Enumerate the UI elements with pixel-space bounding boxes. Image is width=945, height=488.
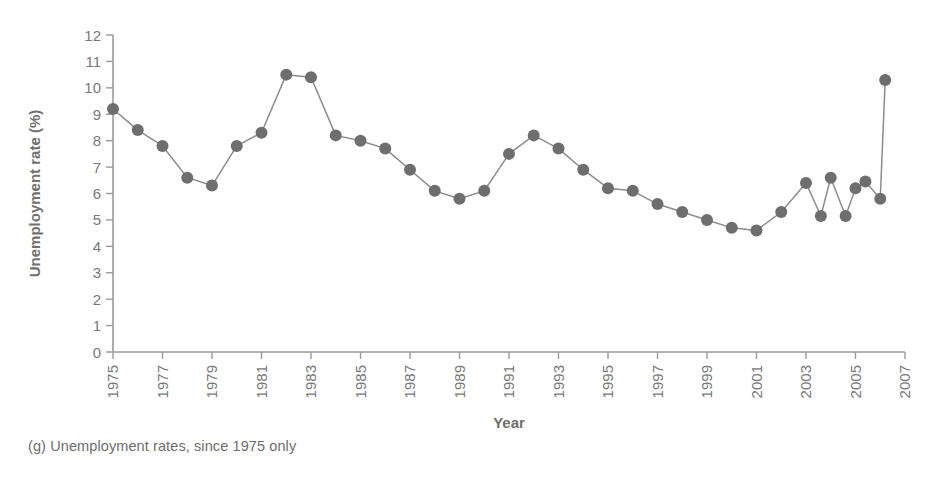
y-axis-tick-label: 8: [93, 132, 101, 149]
figure-container: 0123456789101112197519771979198119831985…: [0, 0, 945, 488]
x-axis-title: Year: [493, 414, 525, 431]
data-series-line: [113, 75, 885, 231]
data-point-marker: [280, 69, 292, 81]
data-point-marker: [107, 103, 119, 115]
data-point-marker: [256, 127, 268, 139]
data-point-marker: [528, 129, 540, 141]
data-point-marker: [652, 198, 664, 210]
y-axis-tick-label: 12: [84, 27, 101, 44]
data-point-marker: [627, 185, 639, 197]
x-axis-tick-label: 1997: [649, 365, 666, 398]
x-axis-tick-label: 1979: [203, 365, 220, 398]
x-axis-tick-label: 1975: [104, 365, 121, 398]
data-point-marker: [553, 143, 565, 155]
data-point-marker: [181, 172, 193, 184]
data-point-marker: [815, 210, 827, 222]
x-axis-tick-label: 1985: [352, 365, 369, 398]
x-axis-tick-label: 2005: [847, 365, 864, 398]
data-point-marker: [775, 206, 787, 218]
data-point-marker: [874, 193, 886, 205]
y-axis-tick-label: 1: [93, 317, 101, 334]
x-axis-tick-label: 1987: [401, 365, 418, 398]
y-axis-tick-label: 11: [85, 53, 101, 70]
data-point-marker: [404, 164, 416, 176]
data-point-marker: [800, 177, 812, 189]
data-point-marker: [701, 214, 713, 226]
data-point-marker: [825, 172, 837, 184]
data-point-marker: [503, 148, 515, 160]
data-point-marker: [330, 129, 342, 141]
x-axis-tick-label: 1995: [599, 365, 616, 398]
data-point-marker: [429, 185, 441, 197]
x-axis-tick-label: 2007: [896, 365, 913, 398]
y-axis-tick-label: 3: [93, 264, 101, 281]
x-axis-tick-label: 1993: [550, 365, 567, 398]
data-point-marker: [478, 185, 490, 197]
data-point-marker: [840, 210, 852, 222]
data-point-marker: [132, 124, 144, 136]
x-axis-tick-label: 1989: [451, 365, 468, 398]
data-point-marker: [157, 140, 169, 152]
y-axis-tick-label: 10: [84, 79, 101, 96]
x-axis-tick-label: 1977: [154, 365, 171, 398]
data-point-marker: [231, 140, 243, 152]
y-axis-tick-label: 9: [93, 106, 101, 123]
data-point-marker: [751, 224, 763, 236]
x-axis-tick-label: 2003: [797, 365, 814, 398]
x-axis-tick-label: 2001: [748, 365, 765, 398]
plot-group: 0123456789101112197519771979198119831985…: [26, 27, 913, 432]
data-point-marker: [305, 71, 317, 83]
unemployment-rate-line-chart: 0123456789101112197519771979198119831985…: [0, 0, 945, 488]
y-axis-tick-label: 6: [93, 185, 101, 202]
data-point-marker: [206, 180, 218, 192]
figure-caption: (g) Unemployment rates, since 1975 only: [28, 438, 296, 454]
y-axis-title: Unemployment rate (%): [26, 110, 43, 278]
x-axis-tick-label: 1981: [253, 365, 270, 398]
x-axis-tick-label: 1999: [698, 365, 715, 398]
data-point-marker: [454, 193, 466, 205]
data-point-marker: [850, 182, 862, 194]
y-axis-tick-label: 5: [93, 211, 101, 228]
x-axis-tick-label: 1991: [500, 365, 517, 398]
y-axis-tick-label: 4: [93, 238, 101, 255]
data-point-marker: [602, 182, 614, 194]
data-point-marker: [676, 206, 688, 218]
data-point-marker: [726, 222, 738, 234]
x-axis-tick-label: 1983: [302, 365, 319, 398]
y-axis-tick-label: 0: [93, 344, 101, 361]
y-axis-tick-label: 2: [93, 291, 101, 308]
data-point-marker: [879, 74, 891, 86]
data-point-marker: [859, 176, 871, 188]
data-point-marker: [379, 143, 391, 155]
data-point-marker: [355, 135, 367, 147]
data-point-marker: [577, 164, 589, 176]
y-axis-tick-label: 7: [93, 159, 101, 176]
